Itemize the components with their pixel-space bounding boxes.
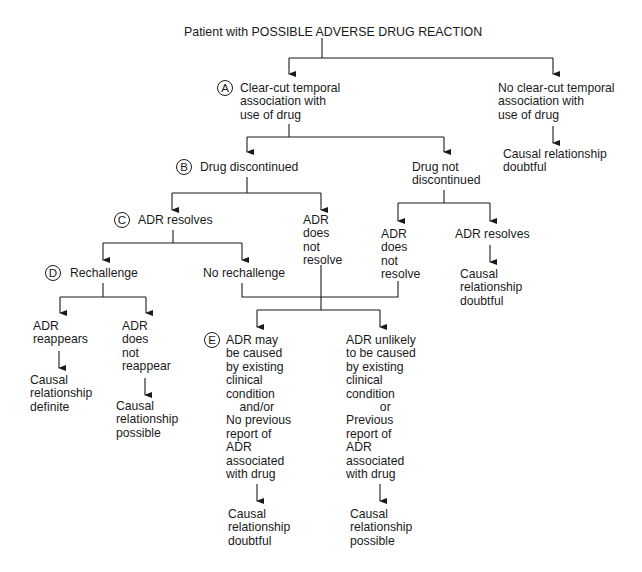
step-marker-a: A (217, 80, 233, 96)
step-marker-d: D (45, 265, 61, 281)
node-drug-not-discontinued: Drug not discontinued (412, 161, 480, 188)
node-drug-discontinued: Drug discontinued (200, 161, 298, 174)
step-marker-b: B (176, 159, 192, 175)
node-no-rechallenge: No rechallenge (203, 267, 285, 280)
node-notdisc-resolves-result: Causal relationship doubtful (460, 268, 522, 308)
node-adr-reappears: ADR reappears (33, 320, 88, 347)
node-not-reappear-result: Causal relationship possible (116, 400, 178, 440)
node-rechallenge: Rechallenge (70, 267, 138, 280)
node-adr-not-reappear: ADR does not reappear (122, 320, 171, 374)
node-notdisc-adr-not-resolve: ADR does not resolve (381, 228, 420, 282)
node-disc-adr-not-resolve: ADR does not resolve (303, 214, 342, 268)
diagram-title: Patient with POSSIBLE ADVERSE DRUG REACT… (184, 26, 482, 39)
node-adr-may-be-caused: ADR may be caused by existing clinical c… (226, 334, 291, 481)
node-reappears-result: Causal relationship definite (30, 374, 92, 414)
node-clear-cut-association: Clear-cut temporal association with use … (240, 82, 340, 122)
node-unlikely-result: Causal relationship possible (350, 508, 412, 548)
node-notdisc-adr-resolves: ADR resolves (455, 228, 530, 241)
step-marker-c: C (114, 212, 130, 228)
node-adr-unlikely: ADR unlikely to be caused by existing cl… (346, 334, 416, 481)
node-e-result: Causal relationship doubtful (228, 508, 290, 548)
step-marker-e: E (204, 332, 220, 348)
node-no-clear-cut-association: No clear-cut temporal association with u… (498, 82, 615, 122)
node-adr-resolves: ADR resolves (138, 214, 213, 227)
node-no-assoc-result: Causal relationship doubtful (503, 148, 607, 175)
